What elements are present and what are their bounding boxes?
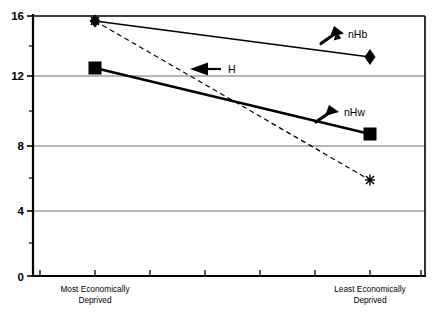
line-chart: 16 12 8 4 0 Most Economically Deprived L… bbox=[0, 0, 438, 323]
series-nhw-marker-start bbox=[89, 62, 102, 75]
y-axis bbox=[27, 14, 33, 277]
annotation-label-nhw: nHw bbox=[344, 106, 365, 118]
y-label-12: 12 bbox=[11, 70, 24, 82]
chart-figure: 16 12 8 4 0 Most Economically Deprived L… bbox=[0, 0, 438, 323]
y-axis-labels: 16 12 8 4 0 bbox=[11, 10, 24, 283]
x-category-left-line1: Most Economically bbox=[60, 284, 130, 294]
x-axis-labels: Most Economically Deprived Least Economi… bbox=[60, 284, 406, 305]
x-category-right-line1: Least Economically bbox=[334, 284, 406, 294]
y-label-4: 4 bbox=[18, 205, 25, 217]
x-category-right-line2: Deprived bbox=[353, 295, 387, 305]
series-h-marker-end bbox=[365, 175, 375, 186]
annotation-label-nhb: nHb bbox=[348, 28, 367, 40]
x-category-left-line2: Deprived bbox=[78, 295, 112, 305]
y-label-16: 16 bbox=[11, 10, 24, 22]
series-nhw-marker-end bbox=[364, 128, 377, 141]
y-label-8: 8 bbox=[18, 140, 25, 152]
y-label-0: 0 bbox=[18, 271, 24, 283]
annotation-label-h: H bbox=[228, 63, 236, 75]
